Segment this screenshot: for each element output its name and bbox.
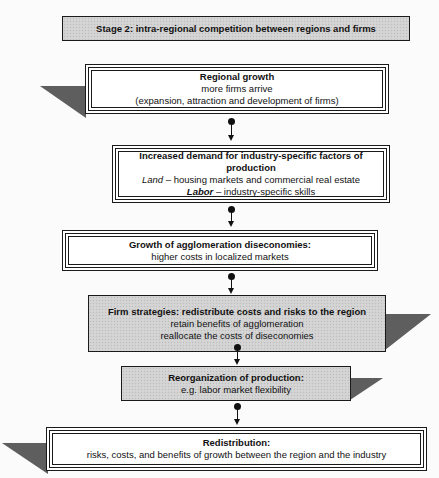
- box-title: Regional growth: [200, 71, 274, 83]
- box-line: e.g. labor market flexibility: [181, 384, 291, 396]
- box-line-land: Land – housing markets and commercial re…: [142, 174, 360, 186]
- shadow-wedge-redistribution: [2, 443, 48, 474]
- box-redistribution: Redistribution: risks, costs, and benefi…: [46, 427, 427, 471]
- arrow-down-icon: [228, 288, 234, 294]
- flow-connector: [232, 344, 242, 366]
- shadow-wedge-firm-strategies: [385, 314, 431, 350]
- box-title: Reorganization of production:: [168, 372, 304, 384]
- stage-header-title: Stage 2: intra-regional competition betw…: [96, 23, 376, 35]
- box-line: risks, costs, and benefits of growth bet…: [87, 449, 386, 461]
- arrow-down-icon: [234, 359, 240, 365]
- box-line-labor: Labor – industry-specific skills: [187, 186, 315, 198]
- flow-connector: [226, 206, 236, 228]
- box-increased-demand: Increased demand for industry-specific f…: [112, 145, 390, 203]
- box-line: retain benefits of agglomeration: [170, 318, 303, 330]
- box-line: more firms arrive: [201, 83, 272, 95]
- labor-label: Labor: [187, 186, 213, 197]
- box-line: higher costs in localized markets: [151, 251, 288, 263]
- shadow-wedge-reorganization: [350, 378, 383, 400]
- box-title: Firm strategies: redistribute costs and …: [108, 306, 366, 318]
- box-regional-growth: Regional growth more firms arrive (expan…: [85, 64, 389, 114]
- box-line: (expansion, attraction and development o…: [135, 95, 338, 107]
- arrow-down-icon: [228, 135, 234, 141]
- stage-header: Stage 2: intra-regional competition betw…: [62, 16, 410, 41]
- flow-connector: [232, 403, 242, 427]
- box-reorganization: Reorganization of production: e.g. labor…: [121, 366, 351, 401]
- flow-connector: [226, 273, 236, 295]
- box-title: Growth of agglomeration diseconomies:: [129, 239, 311, 251]
- box-agglomeration-diseconomies: Growth of agglomeration diseconomies: hi…: [62, 230, 378, 271]
- arrow-down-icon: [228, 221, 234, 227]
- box-title: Redistribution:: [203, 437, 271, 449]
- flow-connector: [226, 118, 236, 142]
- box-title: Increased demand for industry-specific f…: [116, 150, 386, 174]
- land-label: Land: [142, 174, 163, 185]
- shadow-wedge-regional-growth: [40, 86, 86, 118]
- arrow-down-icon: [234, 419, 240, 425]
- box-line: reallocate the costs of diseconomies: [160, 330, 313, 342]
